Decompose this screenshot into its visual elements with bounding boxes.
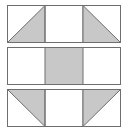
shaded-square — [45, 48, 83, 85]
row-top — [7, 5, 121, 42]
row-middle — [7, 47, 121, 84]
row-bottom — [7, 89, 121, 126]
